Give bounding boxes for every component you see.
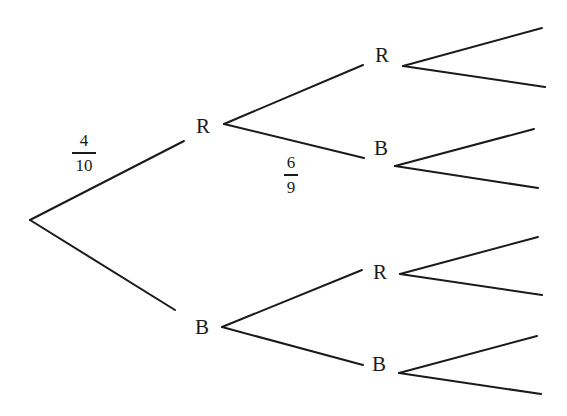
branch-R-to-R [224,65,363,124]
fraction-numerator: 4 [80,132,89,149]
tree-branches [0,0,567,416]
fraction-R-to-B: 6 9 [284,154,298,196]
fraction-bar [72,152,96,154]
node-level2-B-top: B [374,138,388,159]
node-level1-B: B [195,317,209,338]
branch-root-to-R [30,141,184,220]
branch-root-to-B [30,220,175,310]
fraction-denominator: 10 [76,157,93,174]
node-level2-R-top: R [375,45,389,66]
node-level1-R: R [196,116,210,137]
fraction-denominator: 9 [287,179,296,196]
branch-B-to-R [222,270,362,327]
fraction-numerator: 6 [287,154,296,171]
fraction-root-to-R: 4 10 [72,132,96,174]
branch-B-to-B [222,327,363,365]
fraction-bar [284,174,298,176]
node-level2-B-bottom: B [372,354,386,375]
node-level2-R-bottom: R [373,262,387,283]
